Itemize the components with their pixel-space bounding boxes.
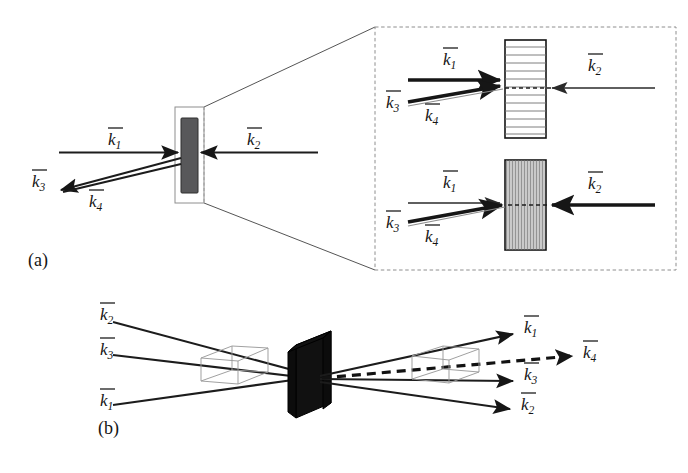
k4-subscript: 4: [97, 201, 103, 213]
beam-k4-inset-bottom: [408, 207, 505, 226]
label-k1-inset-bottom: k1: [443, 171, 458, 194]
beam-k3-panel-a: [61, 158, 181, 190]
k3-subscript: 3: [39, 181, 46, 193]
svg-text:k3: k3: [524, 365, 538, 386]
beam-k3-inset-top: [408, 86, 500, 102]
label-k2-in-panel-b: k2: [100, 303, 115, 326]
label-k3-in-panel-b: k3: [100, 338, 115, 361]
label-k4-inset-bottom: k4: [425, 225, 440, 248]
svg-text:k3: k3: [386, 213, 400, 234]
k1-subscript: 1: [116, 139, 122, 151]
label-k3-inset-bottom: k3: [386, 211, 401, 234]
callout-connectors: [204, 27, 375, 270]
svg-text:k4: k4: [583, 343, 597, 364]
k2-subscript: 2: [255, 139, 261, 151]
inset-transmission: k1 k2 k3 k4: [386, 40, 655, 138]
svg-text:k4: k4: [425, 227, 439, 248]
label-k1-panel-a: k1: [108, 128, 123, 151]
svg-text:k1: k1: [108, 130, 121, 151]
svg-text:k2: k2: [100, 305, 114, 326]
svg-text:k4: k4: [89, 192, 103, 213]
panel-b: k2 k3 k1 k1 k4 k3 k2 (b): [98, 303, 598, 439]
svg-text:k4: k4: [425, 106, 439, 127]
svg-text:k1: k1: [524, 318, 537, 339]
figure-root: k1 k2 k3 k4 (a): [0, 0, 688, 473]
label-k4-panel-a: k4: [89, 190, 104, 213]
svg-text:k1: k1: [443, 50, 456, 71]
label-k2-inset-top: k2: [588, 54, 603, 77]
beam-k1-in-panel-b: [113, 379, 300, 405]
svg-text:k3: k3: [386, 93, 400, 114]
svg-text:k2: k2: [521, 395, 535, 416]
svg-text:k2: k2: [588, 56, 602, 77]
wireframe-left-panel-b: [201, 346, 268, 384]
svg-text:k3: k3: [32, 172, 46, 193]
beam-k3-inset-bottom: [408, 205, 502, 222]
wireframe-right-panel-b: [412, 346, 479, 383]
label-k2-inset-bottom: k2: [588, 172, 603, 195]
label-k3-out-panel-b: k3: [524, 363, 539, 386]
svg-text:k3: k3: [100, 340, 114, 361]
panel-b-label: (b): [98, 418, 119, 439]
label-k3-panel-a: k3: [32, 170, 47, 193]
beam-k2-in-panel-b: [113, 322, 300, 372]
label-k1-inset-top: k1: [443, 48, 458, 71]
svg-text:k2: k2: [247, 130, 261, 151]
inset-reflection: k1 k2 k3 k4: [386, 160, 655, 250]
label-k1-in-panel-b: k1: [100, 389, 115, 412]
beam-k4-panel-a: [63, 164, 181, 192]
label-k2-panel-a: k2: [247, 128, 262, 151]
label-k4-inset-top: k4: [425, 104, 440, 127]
beam-k2-out-panel-b: [320, 382, 510, 409]
svg-text:k1: k1: [443, 173, 456, 194]
panel-a-label: (a): [28, 250, 48, 271]
panel-a: k1 k2 k3 k4 (a): [28, 27, 375, 271]
label-k3-inset-top: k3: [386, 91, 401, 114]
beam-k4-inset-top: [408, 89, 503, 106]
label-k2-out-panel-b: k2: [521, 393, 536, 416]
label-k4-out-panel-b: k4: [583, 341, 598, 364]
svg-text:k2: k2: [588, 174, 602, 195]
nonlinear-slab-panel-a: [181, 118, 198, 193]
label-k1-out-panel-b: k1: [524, 316, 539, 339]
svg-text:k1: k1: [100, 391, 113, 412]
